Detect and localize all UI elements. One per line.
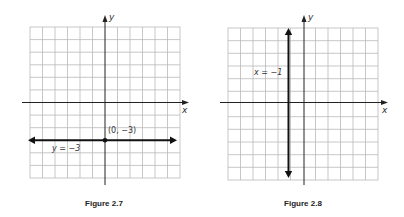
y-axis: [103, 15, 108, 185]
point-0-neg-3: [103, 138, 108, 143]
figure-caption: Figure 2.7: [85, 199, 123, 208]
grid: [228, 28, 378, 180]
figure-2-7-graph: [0, 0, 200, 217]
figure-caption: Figure 2.8: [284, 199, 322, 208]
figure-2-8-graph: [200, 0, 404, 217]
figure-2-7: y x (0, −3) y = −3 Figure 2.7: [0, 0, 200, 217]
figure-2-8: y x x = −1 Figure 2.8: [200, 0, 404, 217]
